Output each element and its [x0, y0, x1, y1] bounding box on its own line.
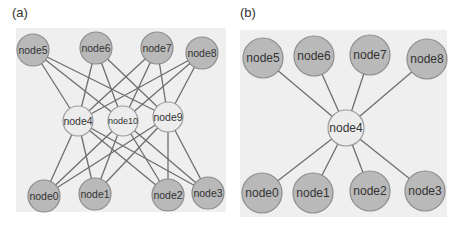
node-label: node0: [245, 186, 279, 200]
node-node7[interactable]: node7: [141, 32, 173, 64]
node-node5[interactable]: node5: [17, 34, 49, 66]
node-node6[interactable]: node6: [80, 32, 112, 64]
node-label: node4: [329, 121, 363, 135]
node-label: node5: [246, 51, 280, 65]
node-node1[interactable]: node1: [79, 178, 111, 210]
node-node5[interactable]: node5: [243, 38, 283, 78]
node-node4[interactable]: node4: [63, 106, 93, 136]
node-label: node6: [81, 42, 110, 54]
node-label: node5: [18, 44, 47, 56]
node-label: node7: [353, 48, 387, 62]
node-node3[interactable]: node3: [192, 177, 224, 209]
node-node2[interactable]: node2: [350, 171, 390, 211]
node-node9[interactable]: node9: [153, 102, 183, 132]
node-label: node7: [142, 42, 171, 54]
node-label: node3: [193, 187, 222, 199]
node-label: node10: [108, 116, 138, 126]
node-label: node1: [80, 188, 109, 200]
node-node8[interactable]: node8: [186, 37, 218, 69]
node-label: node2: [153, 189, 182, 201]
node-node2[interactable]: node2: [152, 179, 184, 211]
node-node7[interactable]: node7: [350, 35, 390, 75]
node-node6[interactable]: node6: [294, 36, 334, 76]
node-node0[interactable]: node0: [242, 173, 282, 213]
node-label: node1: [296, 186, 330, 200]
node-node10[interactable]: node10: [108, 106, 138, 136]
node-label: node0: [29, 190, 58, 202]
node-label: node8: [410, 52, 444, 66]
node-label: node9: [153, 111, 182, 123]
node-label: node8: [187, 47, 216, 59]
panel-b: node5node6node7node8node4node0node1node2…: [240, 30, 447, 217]
panel-a: node5node6node7node8node4node10node9node…: [16, 28, 226, 212]
node-label: node3: [408, 184, 442, 198]
node-node1[interactable]: node1: [293, 173, 333, 213]
node-label: node6: [297, 49, 331, 63]
node-node4[interactable]: node4: [328, 110, 364, 146]
node-node3[interactable]: node3: [405, 171, 445, 211]
node-label: node4: [63, 115, 92, 127]
node-node0[interactable]: node0: [28, 180, 60, 212]
node-label: node2: [353, 184, 387, 198]
network-diagrams: node5node6node7node8node4node10node9node…: [0, 0, 460, 225]
node-node8[interactable]: node8: [407, 39, 447, 79]
